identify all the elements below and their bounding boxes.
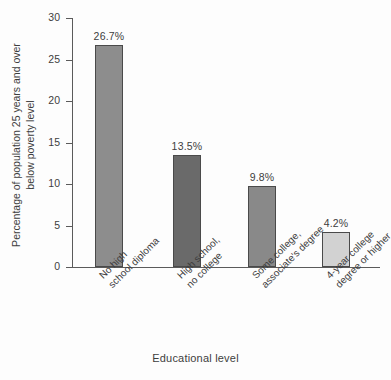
y-axis-tick-mark (66, 184, 72, 185)
y-axis-tick-label: 25 (36, 54, 60, 65)
y-axis-tick-label: 0 (36, 261, 60, 272)
y-axis-title-line-1: Percentage of population 25 years and ov… (10, 43, 22, 247)
bar-value-label: 13.5% (159, 141, 215, 152)
y-axis-tick-label: 20 (36, 95, 60, 106)
y-axis-tick-mark (66, 101, 72, 102)
y-axis-tick-label: 5 (36, 220, 60, 231)
y-axis-tick-mark (66, 267, 72, 268)
y-axis-tick-label: 15 (36, 137, 60, 148)
y-axis-tick-label: 30 (36, 12, 60, 23)
bar-value-label: 26.7% (81, 31, 137, 42)
y-axis-tick-label: 10 (36, 178, 60, 189)
y-axis-title-line-2: below poverty level (23, 100, 35, 189)
y-axis-tick-mark (66, 226, 72, 227)
y-axis-tick-mark (66, 18, 72, 19)
bar-value-label: 9.8% (234, 172, 290, 183)
bar (95, 45, 123, 267)
x-axis-title: Educational level (0, 352, 391, 365)
y-axis-tick-mark (66, 143, 72, 144)
y-axis-line (72, 18, 73, 268)
y-axis-title: Percentage of population 25 years and ov… (8, 20, 38, 270)
y-axis-tick-mark (66, 60, 72, 61)
bar-chart-figure: 051015202530 Percentage of population 25… (0, 0, 391, 380)
